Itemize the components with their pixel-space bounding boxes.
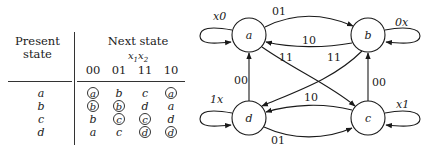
edge-label-b-d: 11 — [327, 51, 341, 64]
self-loop-b — [385, 28, 420, 43]
edge-label-c-d: 10 — [304, 91, 318, 104]
edge-c-d — [266, 105, 352, 112]
node-label-d: d — [245, 112, 252, 125]
loop-label-b: 0x — [395, 16, 409, 29]
state-diagram: a b c d x0 0x x1 1x 01 10 11 11 00 00 10… — [0, 0, 432, 152]
self-loop-a — [200, 28, 232, 43]
node-label-a: a — [246, 29, 253, 42]
edge-label-b-a: 10 — [302, 34, 316, 47]
loop-label-a: x0 — [213, 10, 226, 23]
loop-label-d: 1x — [210, 93, 224, 106]
node-label-b: b — [364, 29, 371, 42]
loop-label-c: x1 — [396, 98, 409, 111]
edge-label-c-b: 00 — [372, 76, 386, 89]
edge-label-a-b: 01 — [272, 5, 286, 18]
self-loop-c — [385, 111, 420, 126]
edge-label-a-c: 11 — [279, 51, 293, 64]
edge-label-d-c: 01 — [271, 134, 285, 147]
edge-label-d-a: 00 — [234, 74, 248, 87]
self-loop-d — [200, 111, 232, 126]
node-label-c: c — [365, 112, 371, 125]
